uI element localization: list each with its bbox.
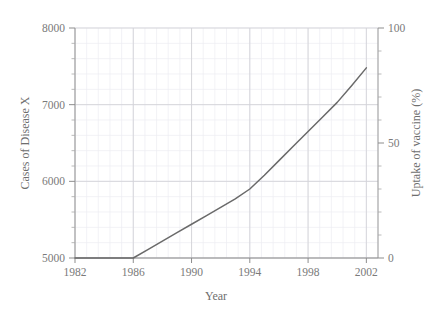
x-tick-label: 1990	[180, 266, 203, 278]
line-chart-svg: 198219861990199419982002 500060007000800…	[0, 0, 433, 319]
x-axis-title: Year	[205, 289, 227, 303]
right-tick-label: 50	[388, 137, 400, 149]
y-tick-label: 8000	[42, 22, 65, 34]
right-tick-label: 100	[388, 22, 406, 34]
y-tick-label: 6000	[42, 175, 65, 187]
chart-figure: 198219861990199419982002 500060007000800…	[0, 0, 433, 319]
y-axis-title: Cases of Disease X	[18, 96, 32, 189]
x-tick-label: 1986	[122, 266, 145, 278]
right-axis-title: Uptake of vaccine (%)	[409, 89, 423, 197]
right-tick-label: 0	[388, 252, 394, 264]
x-tick-label: 1998	[297, 266, 320, 278]
y-tick-label: 7000	[42, 99, 65, 111]
x-tick-label: 2002	[355, 266, 378, 278]
x-tick-label: 1982	[64, 266, 87, 278]
x-tick-label: 1994	[238, 266, 261, 278]
y-tick-label: 5000	[42, 252, 65, 264]
